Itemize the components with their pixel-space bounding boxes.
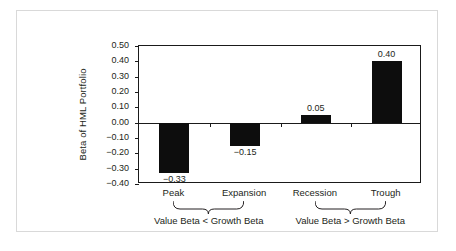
category-label-trough: Trough (371, 187, 401, 198)
bar-trough (372, 61, 402, 122)
bar-value-label: 0.05 (307, 103, 325, 113)
bar-value-label: −0.33 (163, 174, 186, 184)
brace-icon (173, 201, 244, 214)
y-axis-tick-label: 0.50 (111, 40, 129, 50)
y-axis-tick-mark (135, 169, 139, 170)
group-annotations: Value Beta < Growth BetaValue Beta > Gro… (138, 201, 421, 235)
y-axis-tick-mark (135, 46, 139, 47)
brace-icon (315, 201, 386, 214)
y-axis-title-text: Beta of HML Portfolio (77, 68, 88, 160)
figure-card: Beta of HML Portfolio 0.500.400.300.200.… (16, 10, 438, 232)
y-axis-tick-mark (135, 61, 139, 62)
y-axis-tick-label: 0.00 (111, 117, 129, 127)
y-axis-tick-label: −0.40 (106, 178, 129, 188)
y-axis-title: Beta of HML Portfolio (75, 45, 89, 183)
y-axis-tick-mark (135, 92, 139, 93)
y-axis-tick-label: 0.10 (111, 101, 129, 111)
plot-area: −0.33−0.150.050.40 (138, 45, 421, 183)
bar-recession (301, 115, 331, 123)
category-label-recession: Recession (293, 187, 337, 198)
y-axis-tick-label: 0.30 (111, 71, 129, 81)
y-axis-tick-labels: 0.500.400.300.200.100.00−0.10−0.20−0.30−… (93, 45, 133, 183)
x-axis-category-labels: PeakExpansionRecessionTrough (138, 187, 421, 201)
y-axis-tick-mark (135, 153, 139, 154)
y-axis-tick-mark (135, 77, 139, 78)
bar-expansion (230, 123, 260, 146)
y-axis-tick-label: 0.20 (111, 86, 129, 96)
x-axis-tick-mark (210, 123, 211, 127)
x-axis-tick-mark (281, 123, 282, 127)
y-axis-tick-label: 0.40 (111, 55, 129, 65)
y-axis-tick-label: −0.10 (106, 132, 129, 142)
group-caption-1: Value Beta < Growth Beta (154, 215, 263, 226)
x-axis-tick-mark (351, 123, 352, 127)
y-axis-tick-mark (135, 107, 139, 108)
y-axis-tick-label: −0.30 (106, 163, 129, 173)
bar-peak (159, 123, 189, 174)
y-axis-tick-mark (135, 184, 139, 185)
y-axis-tick-mark (135, 123, 139, 124)
y-axis-tick-mark (135, 138, 139, 139)
y-axis-tick-label: −0.20 (106, 147, 129, 157)
bar-value-label: 0.40 (378, 49, 396, 59)
category-label-peak: Peak (163, 187, 185, 198)
bar-value-label: −0.15 (234, 147, 257, 157)
category-label-expansion: Expansion (222, 187, 266, 198)
group-caption-2: Value Beta > Growth Beta (296, 215, 405, 226)
